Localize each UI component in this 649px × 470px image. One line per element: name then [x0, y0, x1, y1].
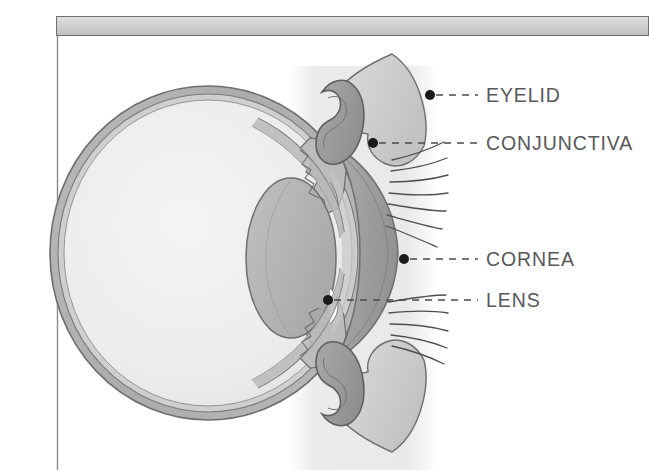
label-eyelid: EYELID — [486, 84, 561, 106]
lens-body — [246, 178, 336, 338]
label-lens-anchor-dot — [323, 295, 333, 305]
label-conjunctiva: CONJUNCTIVA — [486, 132, 633, 154]
header-bar — [57, 17, 649, 36]
label-conjunctiva-anchor-dot — [368, 138, 378, 148]
eye-diagram-canvas: EYELIDCONJUNCTIVACORNEALENS — [0, 0, 649, 470]
label-cornea-anchor-dot — [399, 254, 409, 264]
label-lens: LENS — [486, 289, 541, 311]
label-cornea: CORNEA — [486, 248, 575, 270]
label-eyelid-anchor-dot — [425, 90, 435, 100]
eye-anatomy-figure: EYELIDCONJUNCTIVACORNEALENS — [0, 0, 649, 470]
